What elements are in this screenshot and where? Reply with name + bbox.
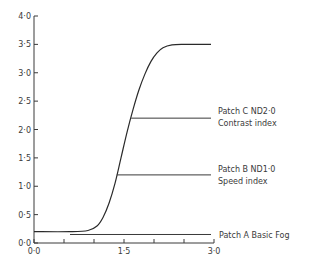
x-tick-label: 1·5: [118, 247, 131, 256]
y-tick-label: 0·5: [18, 211, 31, 220]
y-axis: 0·00·51·01·52·02·53·03·54·0: [18, 12, 38, 248]
y-tick-label: 3·5: [18, 40, 31, 49]
x-axis: 0·01·53·0: [28, 239, 221, 256]
x-tick-label: 0·0: [28, 247, 41, 256]
y-tick-label: 2·5: [18, 97, 31, 106]
y-tick-label: 1·0: [18, 182, 31, 191]
speed-index-label: Speed index: [218, 177, 268, 186]
y-tick-label: 2·0: [18, 126, 31, 135]
y-tick-label: 3·0: [18, 69, 31, 78]
patch-b-label: Patch B ND1·0: [218, 165, 275, 174]
patch-c-label: Patch C ND2·0: [218, 107, 276, 116]
characteristic-curve: [34, 44, 211, 231]
characteristic-curve-chart: 0·00·51·01·52·02·53·03·54·0 0·01·53·0 Pa…: [0, 0, 314, 271]
x-tick-label: 3·0: [208, 247, 221, 256]
annotations: [70, 118, 211, 234]
patch-a-label: Patch A Basic Fog: [219, 231, 290, 240]
y-tick-label: 4·0: [18, 12, 31, 21]
y-tick-label: 1·5: [18, 154, 31, 163]
contrast-index-label: Contrast index: [218, 119, 277, 128]
